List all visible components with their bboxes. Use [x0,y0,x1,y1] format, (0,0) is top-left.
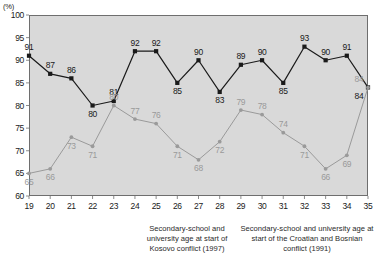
data-label-dark-24: 92 [131,38,140,48]
data-label-gray-33: 66 [321,172,330,182]
data-label-dark-19: 91 [25,42,34,52]
x-tick-32: 32 [294,201,314,211]
data-label-gray-19: 65 [25,177,34,187]
x-tick-27: 27 [189,201,209,211]
x-tick-21: 21 [61,201,81,211]
data-label-dark-22: 80 [88,109,97,119]
data-label-gray-27: 68 [194,163,203,173]
x-tick-28: 28 [210,201,230,211]
data-label-dark-26: 85 [173,86,182,96]
x-tick-31: 31 [273,201,293,211]
x-tick-22: 22 [83,201,103,211]
data-label-gray-34: 69 [342,159,351,169]
data-label-gray-29: 79 [236,97,245,107]
data-label-dark-27: 90 [194,47,203,57]
data-label-gray-24: 77 [131,106,140,116]
data-label-gray-30: 78 [258,101,267,111]
data-label-dark-29: 89 [236,51,245,61]
x-tick-25: 25 [146,201,166,211]
data-label-gray-26: 71 [173,150,182,160]
annotation-croatian-bosnian-conflict: Secondary-school and university age at s… [240,224,374,254]
x-tick-24: 24 [125,201,145,211]
data-label-dark-31: 85 [279,86,288,96]
x-tick-34: 34 [337,201,357,211]
data-label-gray-25: 76 [152,110,161,120]
data-label-gray-23: 80 [109,92,118,102]
data-label-dark-28: 83 [215,95,224,105]
data-label-dark-21: 86 [67,65,76,75]
x-tick-35: 35 [358,201,377,211]
data-label-dark-25: 92 [152,38,161,48]
data-label-gray-28: 72 [215,145,224,155]
x-tick-26: 26 [167,201,187,211]
data-label-gray-35: 84 [355,74,364,84]
x-tick-23: 23 [104,201,124,211]
data-label-dark-34: 91 [342,42,351,52]
annotation-kosovo-conflict: Secondary-school and university age at s… [134,224,240,254]
data-label-dark-35: 84 [355,91,364,101]
data-label-gray-20: 66 [46,172,55,182]
x-tick-29: 29 [231,201,251,211]
x-tick-33: 33 [316,201,336,211]
data-label-gray-22: 71 [88,150,97,160]
x-tick-19: 19 [19,201,39,211]
data-label-dark-32: 93 [300,33,309,43]
data-label-gray-21: 73 [67,141,76,151]
line-chart: (%) 6065707580859095100 1920212223242526… [0,0,377,266]
data-label-gray-32: 71 [300,150,309,160]
data-label-gray-31: 74 [279,119,288,129]
x-tick-20: 20 [40,201,60,211]
data-label-dark-30: 90 [258,47,267,57]
data-label-dark-20: 87 [46,60,55,70]
x-tick-30: 30 [252,201,272,211]
data-label-dark-33: 90 [321,47,330,57]
